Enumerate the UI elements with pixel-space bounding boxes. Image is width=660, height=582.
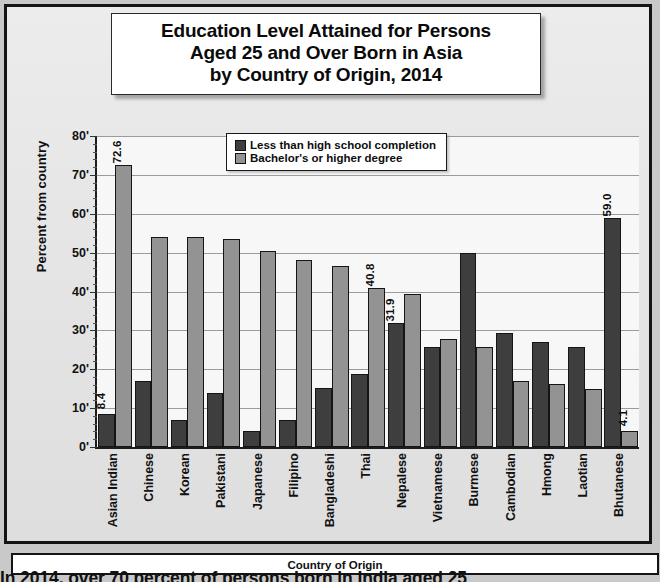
bar-value-label: 4.1 <box>617 410 629 427</box>
x-axis-category-labels: Asian IndianChineseKoreanPakistaniJapane… <box>95 451 637 543</box>
y-tick-label: 60' <box>72 207 89 221</box>
bar-group <box>567 136 603 447</box>
x-label-cell: Thai <box>348 451 384 543</box>
y-tick-label: 0' <box>79 440 89 454</box>
y-tick-major <box>90 253 97 254</box>
bar <box>513 381 530 447</box>
bar: 72.6 <box>115 165 132 447</box>
bar <box>171 420 188 447</box>
y-tick-major <box>90 214 97 215</box>
bar-group <box>133 136 169 447</box>
plot-wrapper: Percent from country 0'10'20'30'40'50'60… <box>7 7 655 547</box>
bar <box>585 389 602 447</box>
y-tick-label: 50' <box>72 246 89 260</box>
x-axis-label: Korean <box>178 453 192 496</box>
bar <box>243 431 260 447</box>
bar-group <box>278 136 314 447</box>
x-axis-label: Vietnamese <box>431 453 445 522</box>
bar-value-label: 31.9 <box>384 298 396 321</box>
bar-group <box>531 136 567 447</box>
y-axis-title: Percent from country <box>34 87 49 327</box>
bar: 8.4 <box>98 414 115 447</box>
bar-groups: 8.472.640.831.959.04.1 <box>97 136 639 447</box>
legend-item-1: Bachelor's or higher degree <box>235 152 436 164</box>
y-tick-major <box>90 330 97 331</box>
y-tick-major <box>90 136 97 137</box>
x-label-cell: Japanese <box>240 451 276 543</box>
x-label-cell: Korean <box>167 451 203 543</box>
bar <box>223 239 240 447</box>
x-label-cell: Vietnamese <box>420 451 456 543</box>
legend-swatch-icon <box>235 153 246 164</box>
x-label-cell: Chinese <box>131 451 167 543</box>
x-axis-label: Thai <box>359 453 373 479</box>
y-tick-major <box>90 369 97 370</box>
plot-area: 8.472.640.831.959.04.1 <box>95 136 639 449</box>
bar <box>549 384 566 447</box>
y-tick-label: 10' <box>72 401 89 415</box>
bar <box>315 388 332 447</box>
bar <box>151 237 168 447</box>
x-label-cell: Cambodian <box>493 451 529 543</box>
x-axis-label: Burmese <box>467 453 481 507</box>
bar <box>496 333 513 447</box>
bar-group <box>422 136 458 447</box>
legend-swatch-icon <box>235 140 246 151</box>
bar <box>332 266 349 447</box>
legend-item-0: Less than high school completion <box>235 139 436 151</box>
bar: 31.9 <box>388 323 405 447</box>
x-label-cell: Laotian <box>565 451 601 543</box>
bar <box>440 339 457 447</box>
bar-group: 8.472.6 <box>97 136 133 447</box>
x-axis-label: Bangladeshi <box>323 453 337 527</box>
bar <box>279 420 296 447</box>
bar-group: 40.8 <box>350 136 386 447</box>
legend-label: Bachelor's or higher degree <box>250 152 402 164</box>
bar-group <box>495 136 531 447</box>
x-label-cell: Pakistani <box>203 451 239 543</box>
x-axis-label: Asian Indian <box>106 453 120 527</box>
figure-caption: In 2014, over 70 percent of persons born… <box>0 568 660 582</box>
x-label-cell: Burmese <box>456 451 492 543</box>
bar-value-label: 8.4 <box>95 393 107 410</box>
bar-group: 31.9 <box>386 136 422 447</box>
bar <box>460 253 477 447</box>
bar <box>404 294 421 447</box>
x-axis-label: Cambodian <box>504 453 518 521</box>
bar <box>351 374 368 447</box>
bar-value-label: 40.8 <box>364 264 376 287</box>
bar <box>187 237 204 447</box>
x-axis-label: Laotian <box>576 453 590 497</box>
x-axis-label: Nepalese <box>395 453 409 508</box>
y-tick-major <box>90 292 97 293</box>
chart-legend: Less than high school completion Bachelo… <box>226 133 447 171</box>
x-label-cell: Nepalese <box>384 451 420 543</box>
bar-group: 59.04.1 <box>603 136 639 447</box>
bar <box>135 381 152 447</box>
bar-group <box>242 136 278 447</box>
bar <box>476 347 493 447</box>
y-axis-tick-labels: 0'10'20'30'40'50'60'70'80' <box>49 125 89 455</box>
bar-group <box>205 136 241 447</box>
y-tick-label: 80' <box>72 129 89 143</box>
bar-group <box>458 136 494 447</box>
y-tick-label: 20' <box>72 362 89 376</box>
x-label-cell: Asian Indian <box>95 451 131 543</box>
x-axis-label: Bhutanese <box>612 453 626 517</box>
y-tick-label: 70' <box>72 168 89 182</box>
x-label-cell: Bangladeshi <box>312 451 348 543</box>
bar-group <box>169 136 205 447</box>
x-label-cell: Hmong <box>529 451 565 543</box>
legend-label: Less than high school completion <box>250 139 436 151</box>
x-axis-label: Pakistani <box>214 453 228 508</box>
bar-value-label: 72.6 <box>111 140 123 163</box>
chart-frame: Education Level Attained for Persons Age… <box>4 4 652 544</box>
y-tick-major <box>90 175 97 176</box>
bar <box>207 393 224 447</box>
bar <box>296 260 313 447</box>
y-tick-label: 30' <box>72 323 89 337</box>
y-tick-label: 40' <box>72 285 89 299</box>
bar-group <box>314 136 350 447</box>
x-label-cell: Filipino <box>276 451 312 543</box>
x-axis-label: Japanese <box>251 453 265 510</box>
